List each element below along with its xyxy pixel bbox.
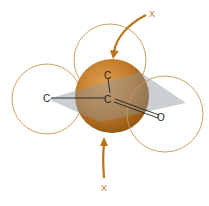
carbonyl-diagram: C C C O X X (0, 0, 209, 206)
diagram-canvas: C C C O X X (0, 0, 209, 206)
atom-top-carbon: C (104, 70, 111, 81)
top-attack-label: X (149, 9, 155, 19)
bottom-attack-label: X (101, 183, 107, 193)
bottom-attack-arrow (103, 144, 104, 178)
top-attack-arrow (114, 15, 146, 52)
bottom-arrowhead-icon (100, 137, 108, 146)
atom-oxygen: O (157, 112, 165, 123)
top-arrowhead-icon (110, 50, 119, 59)
atom-left-carbon: C (43, 93, 50, 104)
atom-center-carbon: C (104, 94, 111, 105)
molecular-plane (48, 72, 186, 122)
